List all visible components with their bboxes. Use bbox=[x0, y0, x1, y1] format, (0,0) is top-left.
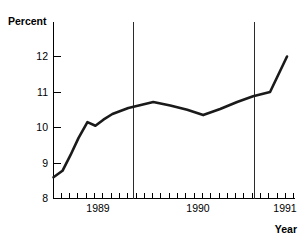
x-tick-label-1991: 1991 bbox=[273, 202, 297, 214]
y-tick-label-12: 12 bbox=[36, 50, 48, 62]
y-tick-label-10: 10 bbox=[36, 121, 48, 133]
x-tick-label-1990: 1990 bbox=[186, 202, 210, 214]
y-axis-title: Percent bbox=[8, 15, 47, 27]
x-axis-title: Year bbox=[275, 223, 297, 235]
x-tick-label-1989: 1989 bbox=[86, 202, 110, 214]
chart-canvas: 12 11 10 9 8 Percent bbox=[0, 0, 306, 248]
y-tick-label-8: 8 bbox=[42, 192, 48, 204]
y-tick-label-9: 9 bbox=[42, 157, 48, 169]
y-tick-label-11: 11 bbox=[37, 86, 48, 98]
line-chart: 12 11 10 9 8 Percent bbox=[0, 0, 306, 248]
